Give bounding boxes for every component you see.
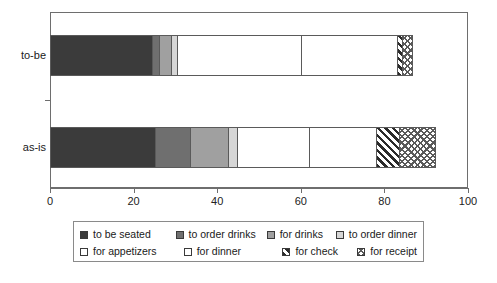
legend-row-1: to be seated to order drinks for drinks …	[80, 226, 417, 243]
legend-item-for-appetizers: for appetizers	[80, 246, 184, 257]
segment-as-is-seated	[50, 127, 156, 168]
chart-legend: to be seated to order drinks for drinks …	[73, 221, 424, 262]
legend-item-to-order-dinner: to order dinner	[336, 229, 417, 240]
x-tick-label-60: 60	[295, 195, 307, 207]
segment-to-be-appetizers	[177, 35, 302, 76]
legend-label-for-drinks: for drinks	[280, 229, 323, 240]
legend-item-for-drinks: for drinks	[267, 229, 336, 240]
legend-label-for-receipt: for receipt	[370, 246, 417, 257]
x-tick-20	[134, 188, 135, 193]
x-axis-line	[50, 188, 468, 189]
bar-to-be	[50, 35, 413, 76]
legend-swatch-for-dinner	[184, 248, 192, 256]
legend-label-to-be-seated: to be seated	[93, 229, 151, 240]
legend-swatch-to-be-seated	[80, 231, 88, 239]
segment-to-be-receipt	[402, 35, 412, 76]
legend-item-to-order-drinks: to order drinks	[176, 229, 267, 240]
x-tick-label-40: 40	[211, 195, 223, 207]
x-tick-100	[468, 188, 469, 193]
legend-swatch-for-appetizers	[80, 248, 88, 256]
legend-label-for-dinner: for dinner	[197, 246, 241, 257]
category-label-as-is: as-is	[8, 141, 46, 153]
segment-to-be-drinks	[159, 35, 173, 76]
legend-item-for-receipt: for receipt	[357, 246, 417, 257]
legend-item-for-dinner: for dinner	[184, 246, 283, 257]
x-tick-0	[50, 188, 51, 193]
legend-swatch-to-order-drinks	[176, 231, 184, 239]
bar-as-is	[50, 127, 436, 168]
legend-label-to-order-dinner: to order dinner	[349, 229, 417, 240]
legend-label-for-appetizers: for appetizers	[93, 246, 157, 257]
segment-as-is-order-drinks	[155, 127, 192, 168]
segment-to-be-dinner	[301, 35, 398, 76]
x-tick-label-0: 0	[47, 195, 53, 207]
x-tick-40	[217, 188, 218, 193]
stacked-bar-chart: to-be as-is 020406080100 to be seated	[0, 0, 497, 283]
legend-item-to-be-seated: to be seated	[80, 229, 176, 240]
segment-as-is-check	[376, 127, 400, 168]
x-tick-label-20: 20	[127, 195, 139, 207]
x-tick-60	[301, 188, 302, 193]
x-tick-label-100: 100	[459, 195, 477, 207]
legend-swatch-for-check	[282, 248, 290, 256]
segment-as-is-drinks	[190, 127, 229, 168]
legend-item-for-check: for check	[282, 246, 357, 257]
y-axis-tick	[45, 100, 50, 101]
x-tick-80	[384, 188, 385, 193]
legend-row-2: for appetizers for dinner for check for …	[80, 243, 417, 260]
segment-as-is-receipt	[399, 127, 436, 168]
legend-label-to-order-drinks: to order drinks	[189, 229, 256, 240]
category-label-to-be: to-be	[8, 49, 46, 61]
segment-to-be-seated	[50, 35, 153, 76]
segment-as-is-appetizers	[237, 127, 310, 168]
legend-swatch-to-order-dinner	[336, 231, 344, 239]
legend-label-for-check: for check	[295, 246, 338, 257]
segment-as-is-dinner	[309, 127, 377, 168]
legend-swatch-for-receipt	[357, 248, 365, 256]
legend-swatch-for-drinks	[267, 231, 275, 239]
x-tick-label-80: 80	[378, 195, 390, 207]
